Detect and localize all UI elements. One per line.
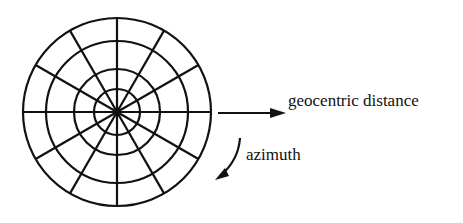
spoke <box>117 31 164 112</box>
polar-grid <box>23 18 211 206</box>
spoke <box>36 112 117 159</box>
azimuth-arrow <box>215 138 240 180</box>
spoke <box>117 112 198 159</box>
spoke <box>36 65 117 112</box>
spoke <box>117 112 164 193</box>
radial-arrow <box>218 108 286 118</box>
azimuth-label: azimuth <box>246 145 301 165</box>
spoke <box>70 112 117 193</box>
spoke <box>117 65 198 112</box>
spoke <box>70 31 117 112</box>
polar-grid-diagram <box>0 0 463 223</box>
radial-axis-label: geocentric distance <box>288 91 419 111</box>
